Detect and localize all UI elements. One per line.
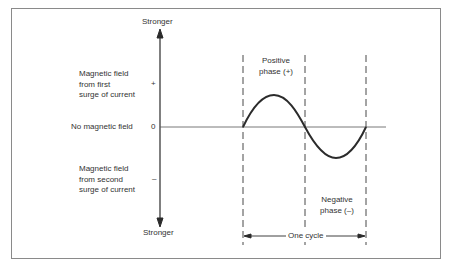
- tick-minus: –: [152, 174, 156, 185]
- label-positive-field: Magnetic field from first surge of curre…: [79, 69, 135, 101]
- arrow-up-icon: [157, 29, 163, 38]
- negative-phase-label: Negative phase (–): [315, 195, 359, 216]
- tick-plus: +: [151, 79, 156, 90]
- sine-wave-diagram: [0, 0, 456, 266]
- axis-top-label: Stronger: [142, 17, 173, 28]
- axis-bottom-label: Stronger: [143, 228, 174, 239]
- vertical-axis: [157, 29, 163, 227]
- phase-boundaries: [243, 55, 366, 245]
- arrow-right-icon: [358, 234, 365, 238]
- positive-phase-label: Positive phase (+): [256, 56, 296, 77]
- label-no-field: No magnetic field: [71, 122, 133, 133]
- sine-wave: [243, 95, 366, 158]
- label-negative-field: Magnetic field from second surge of curr…: [79, 164, 135, 196]
- arrow-left-icon: [244, 234, 251, 238]
- tick-zero: 0: [151, 122, 155, 133]
- arrow-down-icon: [157, 218, 163, 227]
- one-cycle-label: One cycle: [286, 231, 326, 242]
